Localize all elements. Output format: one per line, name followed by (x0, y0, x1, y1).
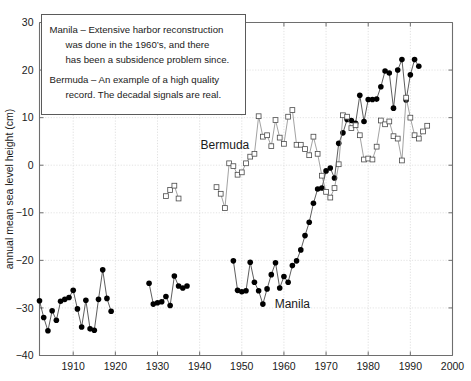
y-tick-label: 30 (22, 16, 34, 28)
data-point (391, 105, 397, 111)
data-point (298, 247, 304, 253)
data-point (416, 136, 421, 141)
data-point (273, 260, 279, 266)
data-point (285, 279, 291, 285)
data-point (265, 133, 270, 138)
data-point (357, 92, 363, 98)
data-point (146, 280, 152, 286)
x-tick-label: 1990 (399, 360, 423, 372)
data-point (307, 153, 312, 158)
data-point (41, 315, 47, 321)
data-point (290, 108, 295, 113)
data-point (328, 195, 333, 200)
data-point (218, 191, 223, 196)
x-tick-label: 1910 (62, 360, 86, 372)
data-point (319, 173, 324, 178)
data-point (184, 283, 190, 289)
data-point (252, 151, 257, 156)
data-point (395, 67, 401, 73)
data-point (273, 118, 278, 123)
data-point (311, 200, 317, 206)
data-point (327, 165, 333, 171)
data-point (100, 267, 106, 273)
data-point (108, 308, 114, 314)
y-tick-label: 0 (28, 159, 34, 171)
data-point (387, 119, 392, 124)
data-point (412, 57, 418, 63)
annotation-line: was done in the 1960’s, and there (65, 39, 210, 50)
data-point (303, 147, 308, 152)
data-point (49, 308, 55, 314)
data-point (159, 299, 165, 305)
data-point (256, 288, 262, 294)
chart-figure: 1910192019301940195019601970198019902000… (0, 0, 471, 381)
y-tick-label: 20 (22, 64, 34, 76)
y-tick-label: −10 (16, 206, 34, 218)
data-point (54, 318, 60, 324)
data-point (378, 84, 384, 90)
x-tick-label: 1920 (104, 360, 128, 372)
x-tick-label: 1950 (230, 360, 254, 372)
data-point (231, 164, 236, 169)
y-tick-label: 10 (22, 111, 34, 123)
data-point (239, 170, 244, 175)
data-point (386, 70, 392, 76)
data-point (231, 258, 237, 264)
x-tick-label: 1970 (314, 360, 338, 372)
data-point (45, 328, 51, 334)
data-point (214, 185, 219, 190)
annotation-line: Manila – Extensive harbor reconstruction (50, 24, 224, 35)
data-point (256, 114, 261, 119)
data-point (37, 298, 43, 304)
data-point (269, 144, 274, 149)
data-point (336, 162, 341, 167)
data-point (361, 119, 367, 125)
data-point (408, 72, 414, 78)
annotation-line: record. The decadal signals are real. (66, 89, 222, 100)
x-tick-label: 1960 (272, 360, 296, 372)
data-point (96, 297, 102, 303)
data-point (260, 301, 266, 307)
data-point (345, 114, 350, 119)
data-point (306, 220, 312, 226)
data-point (408, 115, 413, 120)
data-point (416, 63, 422, 69)
data-point (294, 258, 300, 264)
data-point (421, 129, 426, 134)
annotation-box: Manila – Extensive harbor reconstruction… (42, 15, 246, 115)
data-point (172, 273, 178, 279)
data-point (400, 158, 405, 163)
data-point (75, 306, 81, 312)
data-point (277, 135, 282, 140)
data-point (176, 196, 181, 201)
y-tick-label: −30 (16, 302, 34, 314)
data-point (332, 186, 337, 191)
data-point (370, 157, 375, 162)
data-point (244, 161, 249, 166)
data-point (290, 263, 296, 269)
data-point (281, 274, 287, 280)
data-point (277, 285, 283, 291)
data-point (357, 133, 362, 138)
data-point (315, 151, 320, 156)
series-label-bermuda: Bermuda (201, 138, 250, 152)
data-point (91, 327, 97, 333)
data-point (399, 57, 405, 63)
data-point (104, 296, 110, 302)
data-point (243, 288, 249, 294)
data-point (374, 96, 380, 102)
x-tick-label: 1980 (357, 360, 381, 372)
data-point (374, 144, 379, 149)
data-point (164, 194, 169, 199)
y-tick-label: −40 (16, 349, 34, 361)
annotation-line: Bermuda – An example of a high quality (50, 74, 220, 85)
data-point (264, 286, 270, 292)
data-point (163, 294, 169, 300)
sea-level-line-chart: 1910192019301940195019601970198019902000… (0, 0, 471, 381)
data-point (252, 279, 258, 285)
data-point (66, 295, 72, 301)
data-point (324, 189, 329, 194)
data-point (268, 272, 274, 278)
data-point (353, 123, 358, 128)
y-axis-title-text: annual mean sea level height (cm) (3, 109, 15, 270)
